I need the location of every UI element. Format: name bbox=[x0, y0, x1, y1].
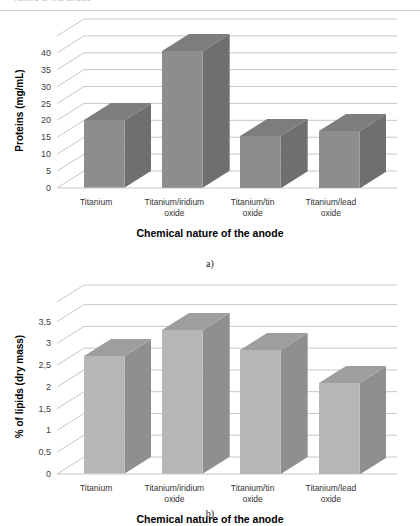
header-divider bbox=[0, 10, 420, 11]
bar-column bbox=[162, 313, 230, 474]
bar-side-face bbox=[319, 366, 387, 474]
figure-page: nature of the anode bbox=[0, 0, 420, 526]
x-category-label: Titanium/lead oxide bbox=[286, 197, 376, 218]
y-axis-title-a: Proteins (mg/mL) bbox=[14, 31, 25, 191]
x-axis-title-a: Chemical nature of the anode bbox=[0, 227, 420, 239]
y-tick-label: 15 bbox=[41, 133, 51, 142]
y-axis-title-b: % of lipids (dry mass) bbox=[14, 307, 25, 467]
y-tick-label: 30 bbox=[41, 82, 51, 91]
bar-side-face bbox=[240, 119, 308, 188]
y-tick-label: 20 bbox=[41, 116, 51, 125]
bar-side-face bbox=[162, 34, 230, 188]
bar-side-face bbox=[84, 339, 152, 474]
bar-column bbox=[319, 114, 387, 188]
bar-column bbox=[240, 119, 308, 188]
y-tick-label: 5 bbox=[46, 167, 51, 176]
x-category-label: Titanium/lead oxide bbox=[286, 483, 376, 504]
x-category-label: Titanium/tin oxide bbox=[208, 197, 298, 218]
y-tick-label: 0,5 bbox=[38, 448, 51, 457]
x-category-label: Titanium/tin oxide bbox=[208, 483, 298, 504]
bar-column bbox=[162, 34, 230, 188]
y-tick-label: 3 bbox=[46, 339, 51, 348]
page-header-text: nature of the anode bbox=[14, 0, 91, 3]
caption-a: a) bbox=[0, 258, 420, 269]
bar-column bbox=[84, 103, 152, 188]
bar-side-face bbox=[240, 333, 308, 474]
y-tick-label: 10 bbox=[41, 150, 51, 159]
chart-a: 0510152025303540 Proteins (mg/mL) Titani… bbox=[0, 22, 420, 252]
bar-column bbox=[240, 333, 308, 474]
plot-area-a bbox=[57, 36, 397, 188]
y-tick-label: 0 bbox=[46, 470, 51, 479]
y-tick-label: 0 bbox=[46, 184, 51, 193]
bar-side-face bbox=[319, 114, 387, 188]
y-tick-label: 1 bbox=[46, 426, 51, 435]
y-tick-label: 35 bbox=[41, 65, 51, 74]
bar-column bbox=[319, 366, 387, 474]
chart-b: 00,511,522,533,5 % of lipids (dry mass) … bbox=[0, 288, 420, 518]
x-category-label: Titanium bbox=[51, 483, 141, 494]
y-tick-label: 40 bbox=[41, 48, 51, 57]
y-tick-label: 2,5 bbox=[38, 361, 51, 370]
y-tick-label: 3,5 bbox=[38, 317, 51, 326]
y-tick-label: 25 bbox=[41, 99, 51, 108]
y-tick-label: 2 bbox=[46, 382, 51, 391]
y-tick-label: 1,5 bbox=[38, 404, 51, 413]
caption-b: b) bbox=[0, 508, 420, 519]
plot-area-b bbox=[57, 302, 397, 474]
x-category-label: Titanium bbox=[51, 197, 141, 208]
x-category-label: Titanium/iridium oxide bbox=[129, 483, 219, 504]
bar-side-face bbox=[162, 313, 230, 474]
x-category-label: Titanium/iridium oxide bbox=[129, 197, 219, 218]
bar-column bbox=[84, 339, 152, 474]
bar-side-face bbox=[84, 103, 152, 188]
